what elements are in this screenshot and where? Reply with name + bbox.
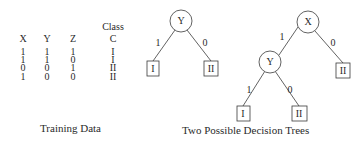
tree2-y-node-label: Y bbox=[260, 57, 280, 67]
tree2-leaf-ii-label: II bbox=[333, 66, 353, 76]
tree2-y-leaf-i-label: I bbox=[233, 109, 253, 119]
trees-caption: Two Possible Decision Trees bbox=[182, 124, 309, 136]
tree2-edge-1-label: 1 bbox=[272, 32, 292, 42]
tree1-edge-1-label: 1 bbox=[148, 38, 168, 48]
tree2-y-leaf-ii-label: II bbox=[289, 109, 309, 119]
tree1-edge-0-label: 0 bbox=[195, 38, 215, 48]
tree2-y-edge-0-label: 0 bbox=[280, 85, 300, 95]
tree2-root-label: X bbox=[298, 17, 318, 27]
tree1-root-label: Y bbox=[171, 16, 191, 26]
tree2-edge-0-label: 0 bbox=[323, 38, 343, 48]
tree2-y-edge-1-label: 1 bbox=[239, 85, 259, 95]
tree1-leaf-ii-label: II bbox=[201, 64, 221, 74]
tree1-leaf-i-label: I bbox=[143, 64, 163, 74]
